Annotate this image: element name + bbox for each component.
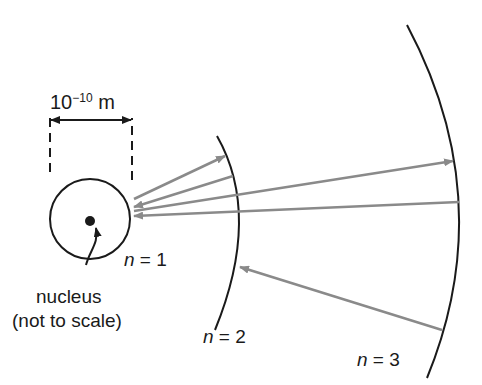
- bohr-atom-diagram: 10−10 m n = 1 n = 2 n = 3 nucleus (not t…: [0, 0, 482, 385]
- nucleus-label: nucleus: [36, 287, 102, 306]
- scale-label: 10−10 m: [50, 92, 115, 112]
- label-n3: n = 3: [357, 350, 400, 369]
- transition-arrows: [134, 156, 459, 330]
- nucleus-note: (not to scale): [12, 311, 122, 330]
- orbit-n2: [215, 136, 239, 330]
- nucleus-dot: [85, 216, 95, 226]
- scale-bar: [50, 118, 132, 180]
- label-n2: n = 2: [203, 327, 246, 346]
- label-n1: n = 1: [124, 250, 167, 269]
